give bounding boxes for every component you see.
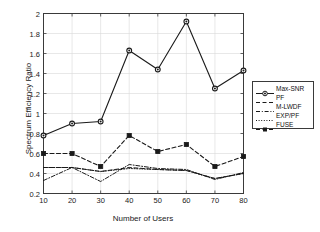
legend-line-sample-icon	[255, 84, 275, 93]
series-pf	[44, 168, 244, 179]
x-tick-label: 80	[239, 196, 247, 205]
legend-label: M-LWDF	[276, 102, 302, 111]
legend-label: PF	[276, 93, 284, 102]
series-exp-pf	[44, 168, 244, 179]
legend-label: Max-SNR	[276, 84, 304, 93]
x-tick-label: 40	[125, 196, 133, 205]
legend-label: EXP/PF	[276, 111, 299, 120]
legend-label: FUSE	[276, 120, 293, 129]
y-tick-label: 2	[36, 9, 40, 18]
chart-legend: Max-SNRPFM-LWDFEXP/PFFUSE	[252, 81, 314, 129]
x-tick-label: 30	[96, 196, 104, 205]
chart-figure: 0.20.40.60.811.21.41.61.82 1020304050607…	[0, 0, 320, 232]
x-tick-label: 50	[154, 196, 162, 205]
y-axis-label: Spectrum Efficiency Ratio	[24, 29, 33, 189]
x-tick-label: 10	[39, 196, 47, 205]
legend-item-m-lwdf[interactable]: M-LWDF	[253, 102, 313, 111]
legend-line-sample-icon	[255, 93, 275, 102]
legend-line-sample-icon	[255, 102, 275, 111]
legend-line-sample-icon	[255, 120, 275, 129]
legend-line-sample-icon	[255, 111, 275, 120]
legend-item-max-snr[interactable]: Max-SNR	[253, 84, 313, 93]
x-tick-label: 20	[68, 196, 76, 205]
legend-item-pf[interactable]: PF	[253, 93, 313, 102]
x-tick-label: 60	[182, 196, 190, 205]
y-tick-label: 1	[36, 109, 40, 118]
x-tick-label: 70	[211, 196, 219, 205]
x-axis-label: Number of Users	[43, 214, 243, 223]
legend-item-fuse[interactable]: FUSE	[253, 120, 313, 129]
legend-item-exp-pf[interactable]: EXP/PF	[253, 111, 313, 120]
